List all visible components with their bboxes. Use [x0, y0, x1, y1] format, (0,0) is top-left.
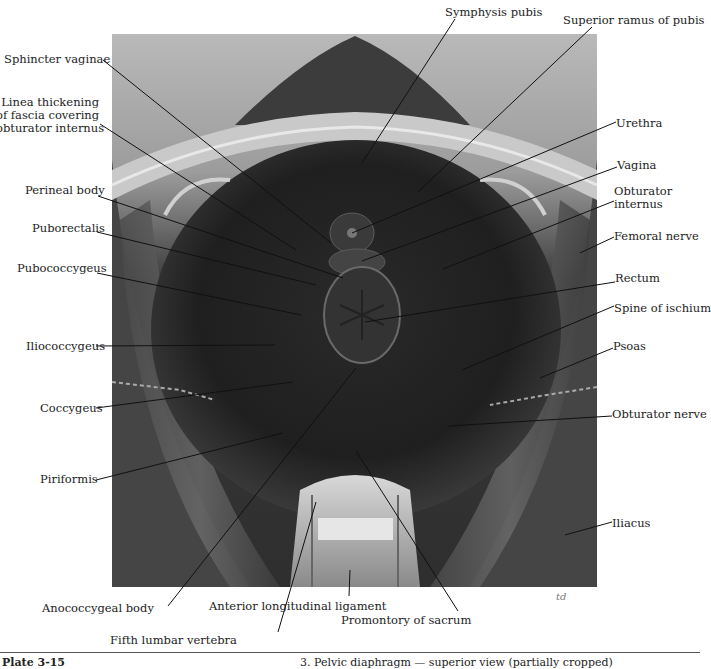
- label-promontory-of-sacrum: Promontory of sacrum: [341, 614, 471, 627]
- label-obturator-internus: Obturator internus: [614, 185, 672, 211]
- label-fifth-lumbar-vertebra: Fifth lumbar vertebra: [110, 634, 237, 647]
- label-linea-thickening: Linea thickening of fascia covering obtu…: [0, 96, 99, 135]
- label-superior-ramus-pubis: Superior ramus of pubis: [563, 14, 704, 27]
- label-psoas: Psoas: [613, 340, 646, 353]
- label-pubococcygeus: Pubococcygeus: [17, 262, 97, 275]
- plate-number: Plate 3-15: [2, 656, 65, 669]
- label-anococcygeal-body: Anococcygeal body: [42, 602, 154, 615]
- label-rectum: Rectum: [615, 272, 660, 285]
- label-anterior-longitudinal-ligament: Anterior longitudinal ligament: [209, 600, 386, 613]
- label-urethra: Urethra: [616, 117, 662, 130]
- label-femoral-nerve: Femoral nerve: [614, 230, 699, 243]
- label-coccygeus: Coccygeus: [40, 402, 96, 415]
- label-obturator-nerve: Obturator nerve: [612, 408, 707, 421]
- label-symphysis-pubis: Symphysis pubis: [445, 6, 542, 19]
- label-iliacus: Iliacus: [612, 517, 651, 530]
- label-piriformis: Piriformis: [40, 473, 96, 486]
- plate-title: 3. Pelvic diaphragm — superior view (par…: [300, 656, 613, 669]
- artist-signature: td: [556, 590, 566, 603]
- label-iliococcygeus: Iliococcygeus: [26, 340, 96, 353]
- label-puborectalis: Puborectalis: [32, 222, 97, 235]
- label-sphincter-vaginae: Sphincter vaginae: [4, 53, 102, 66]
- caption-divider: [0, 652, 700, 653]
- label-perineal-body: Perineal body: [25, 184, 98, 197]
- label-vagina: Vagina: [617, 159, 656, 172]
- label-spine-of-ischium: Spine of ischium: [614, 302, 711, 315]
